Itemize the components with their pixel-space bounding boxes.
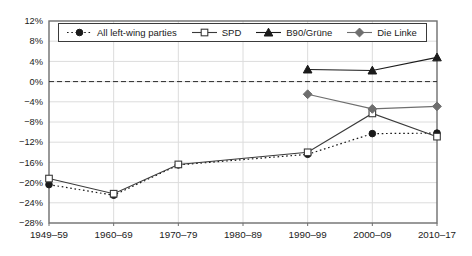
y-tick-label: −28% [19, 218, 43, 228]
x-tick-label: 1990–99 [289, 229, 327, 240]
marker-spd [175, 161, 182, 168]
x-tick-label: 1949–59 [30, 229, 68, 240]
marker-spd [46, 175, 53, 182]
legend-label: SPD [222, 27, 242, 38]
y-tick-label: −16% [19, 158, 43, 168]
marker-die-linke [433, 102, 442, 111]
marker-all-left-wing-parties [369, 130, 376, 137]
y-tick-label: 8% [30, 36, 43, 46]
y-tick-label: −24% [19, 198, 43, 208]
legend-item-all-left-wing-parties: All left-wing parties [67, 27, 177, 38]
legend-label: All left-wing parties [97, 27, 177, 38]
legend-item-spd: SPD [192, 27, 242, 38]
marker-die-linke [303, 90, 312, 99]
x-tick-label: 1960–69 [95, 229, 133, 240]
legend-diamond-icon [347, 27, 372, 38]
marker-b90-gr-ne [433, 53, 442, 61]
legend-item-die-linke: Die Linke [347, 27, 417, 38]
legend-circle-icon [67, 27, 92, 38]
x-tick-label: 2010–17 [418, 229, 456, 240]
chart-container: 12%8%4%0%−4%−8%−12%−16%−20%−24%−28%1949–… [0, 0, 472, 256]
y-tick-label: −12% [19, 137, 43, 147]
y-tick-label: 12% [24, 16, 43, 26]
legend-label: B90/Grüne [286, 27, 332, 38]
y-tick-label: −20% [19, 178, 43, 188]
y-tick-label: −8% [24, 117, 43, 127]
legend-marker-sample [201, 29, 208, 36]
y-tick-label: −4% [24, 97, 43, 107]
legend-item-b90-gr-ne: B90/Grüne [256, 27, 332, 38]
marker-spd [110, 190, 117, 197]
marker-spd [304, 149, 311, 156]
y-tick-label: 0% [30, 77, 43, 87]
legend-square-icon [192, 27, 217, 38]
x-tick-label: 2000–09 [353, 229, 391, 240]
legend-label: Die Linke [377, 27, 417, 38]
legend: All left-wing partiesSPDB90/GrüneDie Lin… [58, 23, 427, 42]
y-tick-label: 4% [30, 57, 43, 67]
marker-spd [434, 133, 441, 140]
legend-triangle-icon [256, 27, 281, 38]
x-tick-label: 1980–89 [224, 229, 262, 240]
legend-marker-sample [76, 29, 83, 36]
x-tick-label: 1970–79 [159, 229, 197, 240]
legend-marker-sample [355, 28, 364, 37]
